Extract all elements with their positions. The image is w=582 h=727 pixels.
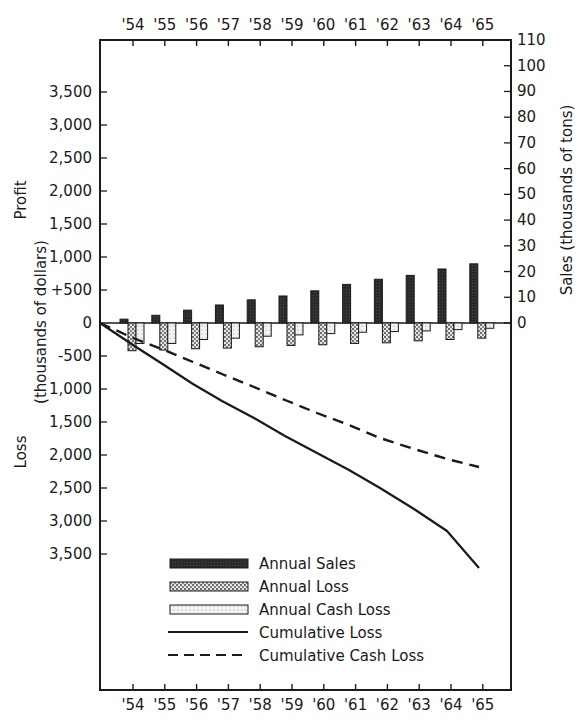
top-x-axis: '54'55'56'57'58'59'60'61'62'63'64'65 <box>121 16 494 46</box>
legend-label: Cumulative Loss <box>259 624 382 642</box>
right-tick-label: 110 <box>517 31 546 49</box>
left-tick-label: 2,000 <box>49 182 92 200</box>
legend-item-annual-cash-loss: Annual Cash Loss <box>170 601 391 619</box>
left-units-title: (thousands of dollars) <box>32 240 50 404</box>
legend-item-annual-sales: Annual Sales <box>170 555 356 573</box>
legend-label: Annual Loss <box>259 578 349 596</box>
left-tick-label: 1,000 <box>49 248 92 266</box>
right-tick-label: 60 <box>517 160 536 178</box>
bottom-year-label: '54 <box>121 696 144 714</box>
bottom-year-label: '56 <box>185 696 208 714</box>
lines-group <box>100 323 479 568</box>
top-year-label: '59 <box>280 16 303 34</box>
left-tick-label: 3,500 <box>49 83 92 101</box>
right-tick-label: 70 <box>517 134 536 152</box>
annual-sales-bar <box>374 279 382 323</box>
annual-loss-bar <box>446 323 454 340</box>
annual-cash-loss-bar <box>168 323 176 343</box>
top-year-label: '56 <box>185 16 208 34</box>
right-tick-label: 80 <box>517 108 536 126</box>
annual-loss-bar <box>319 323 327 345</box>
bottom-year-label: '65 <box>471 696 494 714</box>
top-year-label: '57 <box>217 16 240 34</box>
left-tick-label: 3,500 <box>49 545 92 563</box>
left-y-axis: 3,5003,0002,5002,0001,5001,000+5000-5001… <box>49 83 107 563</box>
annual-cash-loss-bar <box>231 323 239 338</box>
legend-item-cumulative-loss: Cumulative Loss <box>168 624 382 642</box>
annual-cash-loss-swatch <box>170 605 248 614</box>
annual-sales-bar <box>279 296 287 323</box>
annual-sales-bar <box>152 315 160 323</box>
bottom-year-label: '59 <box>280 696 303 714</box>
annual-sales-bar <box>247 300 255 323</box>
left-tick-label: 2,000 <box>49 446 92 464</box>
annual-loss-bar <box>160 323 168 350</box>
right-tick-label: 10 <box>517 288 536 306</box>
legend-item-cumulative-cash-loss: Cumulative Cash Loss <box>168 647 424 665</box>
bottom-year-label: '63 <box>408 696 431 714</box>
left-tick-label: 3,000 <box>49 116 92 134</box>
legend-label: Annual Sales <box>259 555 356 573</box>
bottom-year-label: '61 <box>344 696 367 714</box>
top-year-label: '55 <box>153 16 176 34</box>
annual-sales-bar <box>343 284 351 323</box>
bottom-year-label: '55 <box>153 696 176 714</box>
right-tick-label: 30 <box>517 237 536 255</box>
annual-loss-bar <box>351 323 359 343</box>
annual-sales-bar <box>215 305 223 323</box>
legend: Annual Sales Annual Loss Annual Cash Los… <box>168 555 424 665</box>
bottom-year-label: '58 <box>249 696 272 714</box>
left-tick-label: -500 <box>58 347 92 365</box>
left-tick-label: 1,500 <box>49 215 92 233</box>
annual-loss-bar <box>382 323 390 343</box>
annual-loss-bar <box>287 323 295 345</box>
bottom-year-label: '60 <box>312 696 335 714</box>
annual-loss-bar <box>255 323 263 347</box>
sales-axis-title: Sales (thousands of tons) <box>558 105 576 296</box>
annual-cash-loss-bar <box>295 323 303 335</box>
left-tick-label: 2,500 <box>49 479 92 497</box>
annual-cash-loss-bar <box>390 323 398 332</box>
annual-cash-loss-bar <box>454 323 462 330</box>
bottom-x-axis: '54'55'56'57'58'59'60'61'62'63'64'65 <box>121 684 494 714</box>
annual-sales-swatch <box>170 559 248 568</box>
right-tick-label: 90 <box>517 82 536 100</box>
loss-axis-title: Loss <box>12 435 30 468</box>
top-year-label: '61 <box>344 16 367 34</box>
annual-cash-loss-bar <box>263 323 271 336</box>
annual-sales-bar <box>470 264 478 323</box>
right-tick-label: 40 <box>517 211 536 229</box>
annual-sales-bar <box>184 310 192 323</box>
top-year-label: '54 <box>121 16 144 34</box>
annual-loss-bar <box>192 323 200 349</box>
chart: '54'55'56'57'58'59'60'61'62'63'64'65 '54… <box>0 0 582 727</box>
left-tick-label-zero: 0 <box>82 314 92 332</box>
top-year-label: '64 <box>439 16 462 34</box>
bottom-year-label: '64 <box>439 696 462 714</box>
annual-sales-bar <box>120 319 128 323</box>
annual-loss-bar <box>414 323 422 341</box>
cumulative-loss-line <box>100 323 479 568</box>
annual-sales-bar <box>406 275 414 323</box>
top-year-label: '63 <box>408 16 431 34</box>
legend-item-annual-loss: Annual Loss <box>170 578 349 596</box>
bottom-year-label: '62 <box>376 696 399 714</box>
annual-cash-loss-bar <box>422 323 430 331</box>
left-tick-label: 1,000 <box>49 380 92 398</box>
top-year-label: '65 <box>471 16 494 34</box>
right-tick-label: 0 <box>517 314 527 332</box>
annual-cash-loss-bar <box>486 323 494 328</box>
annual-loss-swatch <box>170 582 248 591</box>
bars-group <box>120 264 494 351</box>
annual-cash-loss-bar <box>200 323 208 340</box>
annual-cash-loss-bar <box>327 323 335 334</box>
bottom-year-label: '57 <box>217 696 240 714</box>
annual-sales-bar <box>311 291 319 323</box>
top-year-label: '62 <box>376 16 399 34</box>
annual-cash-loss-bar <box>359 323 367 332</box>
legend-label: Annual Cash Loss <box>259 601 391 619</box>
left-tick-label: +500 <box>51 281 92 299</box>
annual-loss-bar <box>478 323 486 338</box>
annual-loss-bar <box>223 323 231 348</box>
legend-label: Cumulative Cash Loss <box>259 647 424 665</box>
